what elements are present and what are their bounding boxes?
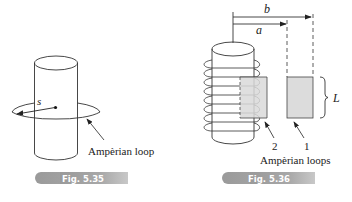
length-brace [320, 77, 328, 118]
radius-arrow [17, 108, 55, 115]
amperian-loop-label: Ampèrian loop [88, 145, 155, 157]
figure-5-35: s Ampèrian loop Fig. 5.35 [12, 56, 155, 184]
radius-label: s [37, 95, 41, 107]
caption-fig-5-36: Fig. 5.36 [222, 172, 315, 184]
loop-2-pointer [265, 122, 274, 138]
svg-text:Fig. 5.36: Fig. 5.36 [248, 174, 290, 184]
length-label: L [332, 91, 340, 105]
loop-2-label: 2 [272, 140, 278, 152]
amperian-loop-1 [287, 77, 313, 118]
svg-text:Fig. 5.35: Fig. 5.35 [62, 174, 104, 184]
distance-a-label: a [256, 23, 262, 37]
distance-b-label: b [264, 2, 270, 16]
figure-5-36: b a [204, 2, 340, 184]
loop-pointer-arrow [87, 119, 104, 140]
amperian-loops-label: Ampèrian loops [260, 154, 331, 166]
loop-1-label: 1 [304, 140, 310, 152]
loop-1-pointer [294, 122, 304, 138]
amperian-loop-ring [12, 103, 100, 119]
amperian-loop-2 [240, 77, 267, 118]
caption-fig-5-35: Fig. 5.35 [35, 172, 128, 184]
